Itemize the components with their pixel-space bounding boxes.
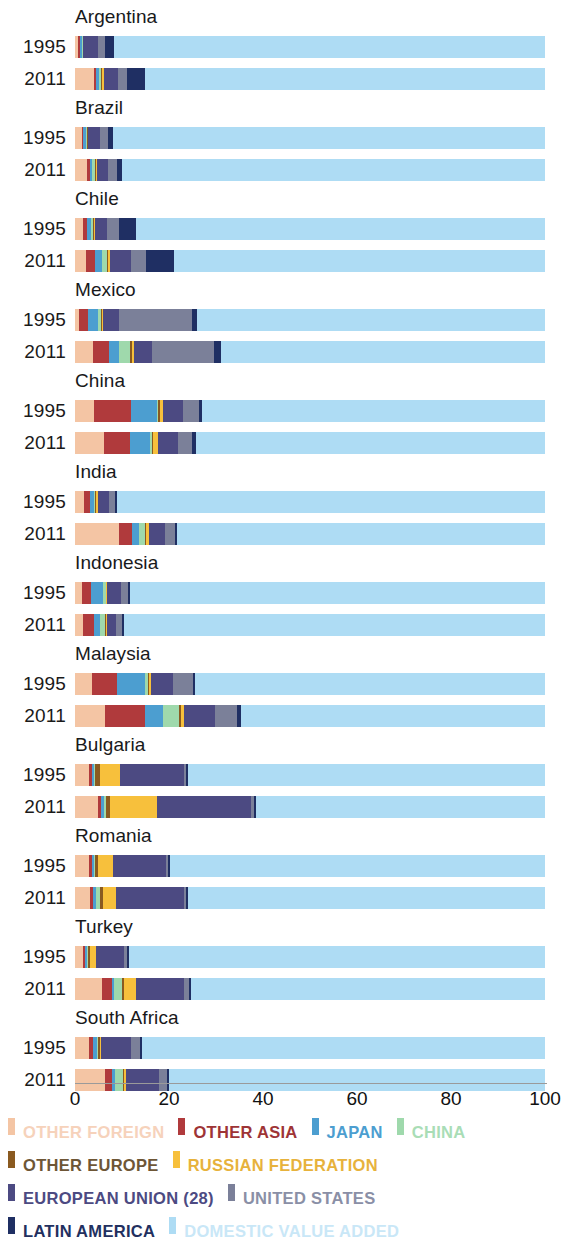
bar-segment: [215, 705, 237, 727]
year-label: 1995: [6, 218, 66, 240]
bar-segment: [75, 673, 92, 695]
year-label: 2011: [6, 978, 66, 1000]
bar-segment: [134, 341, 152, 363]
stacked-bar: [75, 978, 545, 1000]
bar-row: 1995: [0, 218, 570, 240]
stacked-bar: [75, 673, 545, 695]
bar-segment: [109, 341, 119, 363]
legend-item[interactable]: RUSSIAN FEDERATION: [173, 1149, 378, 1181]
bar-segment: [105, 36, 113, 58]
bar-segment: [75, 400, 94, 422]
year-label: 1995: [6, 400, 66, 422]
bar-row: 1995: [0, 491, 570, 513]
year-label: 1995: [6, 127, 66, 149]
bar-segment: [92, 673, 117, 695]
legend-item[interactable]: EUROPEAN UNION (28): [8, 1182, 214, 1214]
legend-label: DOMESTIC VALUE ADDED: [184, 1215, 399, 1247]
bar-segment: [95, 218, 107, 240]
bar-segment: [163, 400, 183, 422]
legend-row: EUROPEAN UNION (28)UNITED STATES: [8, 1182, 389, 1214]
bar-segment: [88, 309, 98, 331]
legend-item[interactable]: CHINA: [397, 1116, 466, 1148]
x-axis-line: [75, 1083, 547, 1084]
bar-segment: [90, 946, 97, 968]
bar-segment: [132, 523, 139, 545]
stacked-bar: [75, 250, 545, 272]
bar-segment: [195, 673, 545, 695]
bar-segment: [103, 309, 119, 331]
country-label: Argentina: [75, 6, 157, 28]
bar-segment: [136, 218, 545, 240]
bar-segment: [119, 523, 132, 545]
legend-item[interactable]: OTHER EUROPE: [8, 1149, 159, 1181]
bar-segment: [79, 309, 88, 331]
bar-segment: [107, 614, 116, 636]
bar-segment: [98, 491, 109, 513]
year-label: 1995: [6, 36, 66, 58]
legend-label: UNITED STATES: [243, 1182, 376, 1214]
bar-row: 1995: [0, 309, 570, 331]
axis-tick-label: 60: [337, 1088, 377, 1110]
bar-row: 1995: [0, 400, 570, 422]
bar-segment: [163, 705, 179, 727]
bar-segment: [152, 341, 214, 363]
bar-segment: [117, 491, 545, 513]
legend-swatch-icon: [8, 1217, 15, 1234]
bar-segment: [82, 582, 91, 604]
stacked-bar: [75, 705, 545, 727]
bar-segment: [165, 523, 174, 545]
legend-swatch-icon: [173, 1151, 180, 1168]
bar-segment: [75, 1037, 89, 1059]
bar-row: 2011: [0, 341, 570, 363]
bar-segment: [127, 68, 145, 90]
legend-item[interactable]: JAPAN: [312, 1116, 383, 1148]
legend-item[interactable]: LATIN AMERICA: [8, 1215, 155, 1247]
bar-segment: [117, 673, 145, 695]
stacked-bar: [75, 341, 545, 363]
legend-item[interactable]: DOMESTIC VALUE ADDED: [169, 1215, 399, 1247]
year-label: 2011: [6, 68, 66, 90]
year-label: 1995: [6, 309, 66, 331]
bar-row: 2011: [0, 159, 570, 181]
country-label: Turkey: [75, 916, 133, 938]
bar-segment: [170, 855, 545, 877]
legend-label: LATIN AMERICA: [23, 1215, 155, 1247]
legend-label: EUROPEAN UNION (28): [23, 1182, 214, 1214]
year-label: 1995: [6, 1037, 66, 1059]
bar-segment: [94, 400, 132, 422]
bar-segment: [177, 523, 545, 545]
bar-segment: [214, 341, 221, 363]
bar-segment: [202, 400, 545, 422]
year-label: 2011: [6, 705, 66, 727]
bar-segment: [120, 764, 184, 786]
bar-segment: [91, 582, 103, 604]
bar-segment: [119, 309, 192, 331]
bar-segment: [98, 855, 112, 877]
stacked-bar: [75, 68, 545, 90]
bar-segment: [98, 36, 105, 58]
year-label: 1995: [6, 764, 66, 786]
country-label: Malaysia: [75, 643, 151, 665]
country-label: Indonesia: [75, 552, 158, 574]
bar-segment: [178, 432, 192, 454]
bar-segment: [105, 705, 144, 727]
legend-item[interactable]: OTHER ASIA: [178, 1116, 297, 1148]
bar-segment: [94, 614, 101, 636]
bar-segment: [118, 68, 127, 90]
bar-segment: [122, 159, 545, 181]
bar-segment: [145, 705, 164, 727]
year-label: 2011: [6, 523, 66, 545]
year-label: 1995: [6, 582, 66, 604]
axis-tick-label: 100: [525, 1088, 565, 1110]
bar-segment: [107, 218, 118, 240]
bar-segment: [101, 1037, 131, 1059]
bar-segment: [196, 432, 545, 454]
country-label: Bulgaria: [75, 734, 146, 756]
legend-item[interactable]: UNITED STATES: [228, 1182, 376, 1214]
bar-segment: [83, 614, 94, 636]
legend-swatch-icon: [8, 1151, 15, 1168]
bar-segment: [103, 887, 116, 909]
stacked-bar-chart: Argentina19952011Brazil19952011Chile1995…: [0, 0, 570, 1255]
bar-segment: [75, 582, 82, 604]
legend-item[interactable]: OTHER FOREIGN: [8, 1116, 164, 1148]
